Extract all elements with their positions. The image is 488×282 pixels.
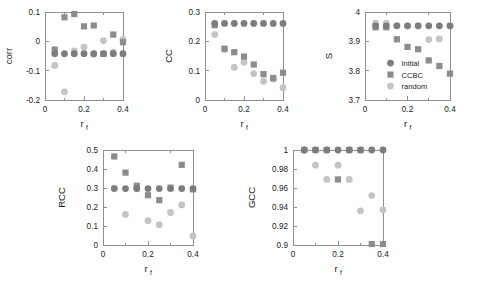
data-point bbox=[100, 37, 107, 44]
data-point bbox=[120, 50, 127, 57]
y-tick-label: 0.9 bbox=[277, 241, 289, 250]
data-point bbox=[167, 185, 174, 192]
series-ccbc bbox=[212, 22, 286, 81]
y-tick-label: 3.7 bbox=[349, 96, 361, 105]
plot-cc: 00.20.400.10.20.3CCrf bbox=[160, 2, 288, 135]
figure-panel-grid: 00.20.4-0.2-0.100.1corrrf 00.20.400.10.2… bbox=[0, 0, 488, 282]
data-point bbox=[335, 147, 342, 154]
data-point bbox=[221, 46, 227, 52]
data-point bbox=[110, 31, 116, 37]
y-axis-label: CC bbox=[163, 49, 174, 63]
y-tick-label: 0.5 bbox=[87, 146, 99, 155]
series-random bbox=[301, 147, 387, 215]
data-point bbox=[425, 36, 432, 43]
data-point bbox=[404, 22, 411, 29]
data-point bbox=[436, 36, 443, 43]
svg-text:r: r bbox=[240, 118, 243, 129]
data-point bbox=[211, 20, 218, 27]
data-point bbox=[323, 147, 330, 154]
series-initial bbox=[211, 20, 286, 27]
y-tick-label: 0.1 bbox=[189, 67, 201, 76]
data-point bbox=[394, 36, 400, 42]
y-tick-label: -0.1 bbox=[26, 67, 41, 76]
legend-label-ccbc: CCBC bbox=[402, 71, 424, 80]
x-tick-label: 0.2 bbox=[332, 250, 344, 259]
series-initial bbox=[51, 50, 126, 57]
data-point bbox=[251, 61, 257, 67]
data-point bbox=[250, 20, 257, 27]
series-ccbc bbox=[111, 153, 196, 203]
data-point bbox=[145, 217, 152, 224]
y-tick-label: 0 bbox=[93, 241, 98, 250]
x-tick-label: 0 bbox=[43, 105, 48, 114]
data-point bbox=[270, 75, 276, 81]
data-point bbox=[383, 22, 390, 29]
data-point bbox=[120, 39, 126, 45]
data-point bbox=[179, 162, 185, 168]
x-axis-label: rf bbox=[240, 118, 248, 131]
data-point bbox=[190, 232, 197, 239]
plot-s: 00.20.43.73.83.94SrfInitialCCBCrandom bbox=[320, 2, 455, 135]
data-point bbox=[426, 57, 432, 63]
series-random bbox=[111, 185, 197, 239]
data-point bbox=[447, 71, 453, 77]
data-point bbox=[312, 162, 319, 169]
chart-cc: 00.20.400.10.20.3CCrf bbox=[160, 2, 288, 135]
svg-text:f: f bbox=[150, 269, 152, 276]
data-point bbox=[231, 64, 238, 71]
svg-text:r: r bbox=[404, 118, 407, 129]
data-point bbox=[415, 22, 422, 29]
data-point bbox=[312, 147, 319, 154]
x-tick-label: 0 bbox=[363, 105, 368, 114]
data-point bbox=[61, 88, 68, 95]
y-tick-label: 4 bbox=[355, 8, 360, 17]
x-tick-label: 0 bbox=[101, 250, 106, 259]
y-tick-label: 0.96 bbox=[272, 184, 288, 193]
data-point bbox=[51, 62, 58, 69]
chart-corr: 00.20.4-0.2-0.100.1corrrf bbox=[0, 2, 128, 135]
data-point bbox=[368, 192, 375, 199]
y-axis-label: GCC bbox=[246, 187, 257, 208]
data-point bbox=[280, 70, 286, 76]
legend-label-random: random bbox=[402, 82, 428, 91]
data-point bbox=[346, 176, 353, 183]
x-tick-label: 0.2 bbox=[402, 105, 414, 114]
data-point bbox=[260, 20, 267, 27]
data-point bbox=[122, 211, 129, 218]
x-tick-label: 0.4 bbox=[117, 105, 129, 114]
svg-text:r: r bbox=[334, 263, 337, 274]
y-tick-label: -0.2 bbox=[26, 96, 41, 105]
chart-rcc: 00.20.400.10.20.30.40.5RCCrf bbox=[55, 140, 210, 282]
legend-marker-ccbc bbox=[387, 71, 393, 77]
svg-text:f: f bbox=[340, 269, 342, 276]
x-axis-label: rf bbox=[144, 263, 152, 276]
data-point bbox=[111, 185, 118, 192]
x-tick-label: 0 bbox=[203, 105, 208, 114]
y-tick-label: 0.92 bbox=[272, 222, 288, 231]
data-point bbox=[404, 44, 410, 50]
x-axis-label: rf bbox=[404, 118, 412, 131]
svg-text:f: f bbox=[246, 124, 248, 131]
data-point bbox=[156, 185, 163, 192]
data-point bbox=[122, 185, 129, 192]
data-point bbox=[61, 50, 68, 57]
x-tick-label: 0.4 bbox=[187, 250, 199, 259]
data-point bbox=[110, 50, 117, 57]
y-tick-label: 3.8 bbox=[349, 67, 361, 76]
x-axis-label: rf bbox=[334, 263, 342, 276]
data-point bbox=[190, 185, 197, 192]
y-tick-label: 0.94 bbox=[272, 203, 288, 212]
y-tick-label: 3.9 bbox=[349, 37, 361, 46]
y-tick-label: 0.2 bbox=[189, 37, 201, 46]
data-point bbox=[122, 170, 128, 176]
y-tick-label: 0.2 bbox=[87, 203, 99, 212]
data-point bbox=[231, 20, 238, 27]
data-point bbox=[380, 147, 387, 154]
data-point bbox=[335, 176, 341, 182]
y-tick-label: 0.1 bbox=[29, 8, 41, 17]
x-tick-label: 0 bbox=[291, 250, 296, 259]
series-ccbc bbox=[373, 24, 454, 77]
x-axis-label: rf bbox=[80, 118, 88, 131]
data-point bbox=[436, 63, 442, 69]
data-point bbox=[270, 20, 277, 27]
